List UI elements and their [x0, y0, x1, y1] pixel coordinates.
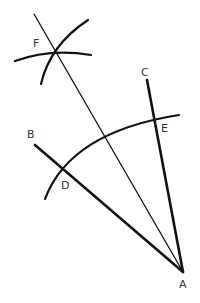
ray-ab: [35, 145, 183, 272]
label-c: C: [141, 66, 149, 79]
label-a: A: [179, 278, 187, 291]
label-d: D: [61, 179, 69, 192]
label-e: E: [161, 122, 168, 135]
label-f: F: [33, 37, 39, 50]
ray-ac: [147, 80, 183, 272]
label-b: B: [27, 128, 35, 141]
geometry-diagram: A B C D E F: [0, 0, 200, 303]
